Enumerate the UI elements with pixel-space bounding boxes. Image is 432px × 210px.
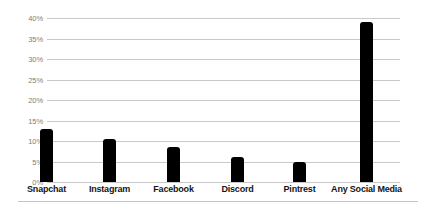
gridline — [47, 18, 400, 19]
bar-chart-figure: 40%35%30%25%20%15%10%5%0% SnapchatInstag… — [0, 0, 432, 210]
y-axis-tick-label: 30% — [28, 55, 43, 64]
x-axis-tick-label: Snapchat — [27, 184, 66, 194]
bar-pintrest[interactable] — [293, 162, 306, 183]
bar-any-social-media[interactable] — [360, 22, 373, 182]
plot-area — [47, 18, 400, 182]
bar-discord[interactable] — [231, 157, 244, 182]
gridline — [47, 182, 400, 183]
gridline — [47, 162, 400, 163]
x-axis-tick-labels: SnapchatInstagramFacebookDiscordPintrest… — [0, 184, 432, 202]
gridline — [47, 59, 400, 60]
x-axis-tick-label: Discord — [221, 184, 253, 194]
gridline — [47, 100, 400, 101]
bar-instagram[interactable] — [103, 139, 116, 182]
bar-facebook[interactable] — [167, 147, 180, 182]
y-axis-tick-label: 15% — [28, 116, 43, 125]
gridline — [47, 141, 400, 142]
y-axis-tick-label: 20% — [28, 96, 43, 105]
x-axis-tick-label: Pintrest — [284, 184, 316, 194]
x-axis-tick-label: Instagram — [89, 184, 130, 194]
bar-snapchat[interactable] — [40, 129, 53, 182]
x-axis-tick-label: Any Social Media — [331, 184, 402, 194]
y-axis-tick-label: 25% — [28, 75, 43, 84]
y-axis-tick-labels: 40%35%30%25%20%15%10%5%0% — [0, 18, 43, 182]
x-axis-tick-label: Facebook — [153, 184, 193, 194]
bottom-divider-rule — [18, 201, 418, 202]
gridline — [47, 39, 400, 40]
gridline — [47, 121, 400, 122]
gridline — [47, 80, 400, 81]
y-axis-tick-label: 35% — [28, 34, 43, 43]
y-axis-tick-label: 40% — [28, 14, 43, 23]
